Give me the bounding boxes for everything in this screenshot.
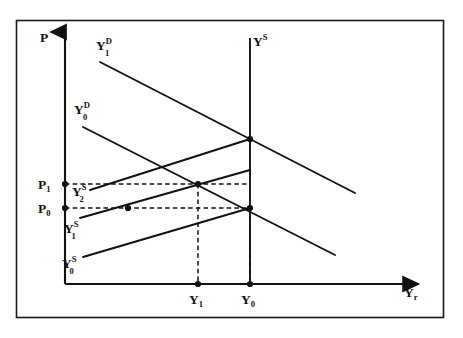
economics-diagram-figure: P Yr P1 P0 Y1 Y0 YD1 YD0 YS YS2 YS1 (0, 0, 463, 338)
vertical-supply-label-base: Y (253, 34, 263, 49)
supply-curve-2-label-sub: 2 (80, 194, 84, 204)
vertical-supply-label-sup: S (263, 32, 268, 42)
equilibrium-p0-y0 (247, 205, 253, 211)
supply-curve-0-label-sup: S (72, 254, 77, 264)
x-axis-label-base: Y (404, 285, 414, 300)
y-tick-p0-sub: 0 (46, 208, 50, 218)
point-on-supply1-at-p0 (125, 205, 131, 211)
x-tick-y1-base: Y (189, 292, 199, 307)
x-tick-y0-sub: 0 (251, 299, 255, 309)
demand-curve-0-label-sub: 0 (83, 112, 87, 122)
demand-curve-1-label-sup: D (106, 36, 112, 46)
x-axis-label-sub: r (414, 292, 418, 302)
x-tick-y0-base: Y (241, 292, 251, 307)
y-axis-label: P (40, 30, 48, 45)
supply-curve-0-label-sub: 0 (70, 266, 74, 276)
axis-point-p0 (62, 205, 68, 211)
supply-curve-2-label-sup: S (82, 182, 87, 192)
equilibrium-p1-y1 (195, 181, 201, 187)
axis-point-p1 (62, 181, 68, 187)
demand-curve-0-label-sup: D (84, 100, 90, 110)
axis-point-y1 (195, 281, 201, 287)
supply-curve-1-label-sup: S (74, 219, 79, 229)
demand-curve-1-label-sub: 1 (105, 48, 109, 58)
axis-point-y0 (247, 281, 253, 287)
y-tick-p1-sub: 1 (46, 184, 50, 194)
y-tick-p0-base: P (38, 201, 46, 216)
y-tick-p1-base: P (38, 177, 46, 192)
equilibrium-upper (247, 136, 253, 142)
x-tick-y1-sub: 1 (199, 299, 203, 309)
figure-border (17, 21, 444, 318)
supply-curve-1-label-sub: 1 (72, 231, 76, 241)
